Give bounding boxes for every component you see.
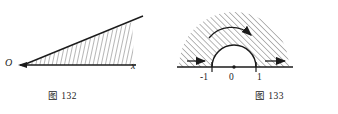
tick-label-zero: 0 [229,72,234,82]
caption-figure-132: 图 132 [0,88,147,102]
figure-132: O x 图 132 [0,0,169,114]
tick-label-pos1: 1 [257,72,262,82]
figure-133: -1 0 1 图 133 [169,0,338,114]
origin-dot [232,65,235,68]
caption-figure-133: 图 133 [185,88,338,102]
figure-sheet: O x 图 132 [0,0,338,114]
axis-label-x: x [131,60,135,71]
tick-label-neg1: -1 [200,72,208,82]
vertex-label-o: O [5,57,12,68]
vertex-arrowhead-icon [18,62,27,68]
